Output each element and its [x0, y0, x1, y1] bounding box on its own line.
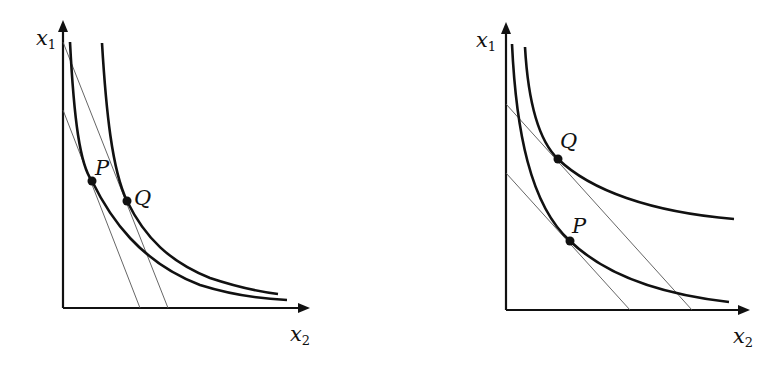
right-diagram-svg: [390, 0, 779, 365]
point-q-label: Q: [560, 131, 577, 152]
budget-line-outer: [506, 104, 692, 310]
right-diagram-panel: x1 x2 Q P: [390, 0, 779, 365]
x-axis-label: x2: [733, 326, 753, 349]
x-axis-label: x2: [290, 324, 310, 347]
point-p-label: P: [95, 158, 109, 179]
y-axis-label: x1: [476, 30, 496, 53]
point-p-label: P: [572, 216, 586, 237]
budget-line-outer: [63, 42, 168, 308]
y-axis-label: x1: [36, 28, 56, 51]
left-diagram-svg: [0, 0, 390, 365]
point-q-label: Q: [134, 188, 151, 209]
indifference-curve-lower: [512, 44, 729, 302]
indifference-curve-upper: [525, 47, 734, 219]
indifference-curve-upper: [102, 43, 278, 294]
point-q-marker: [554, 155, 563, 164]
point-q-marker: [123, 197, 132, 206]
left-diagram-panel: x1 x2 P Q: [0, 0, 390, 365]
